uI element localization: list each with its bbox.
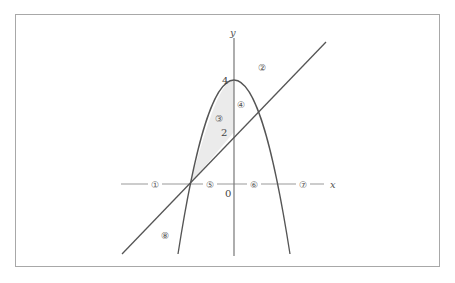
- line-curve: [122, 42, 326, 254]
- svg-text:⑤: ⑤: [206, 180, 214, 190]
- tick-label-y2: 2: [221, 127, 227, 138]
- origin-label: 0: [225, 188, 231, 199]
- svg-text:⑧: ⑧: [161, 231, 169, 241]
- region-marker-3: ③: [215, 114, 223, 124]
- region-marker-6: ⑥: [247, 178, 261, 190]
- svg-text:②: ②: [258, 63, 266, 73]
- region-marker-2: ②: [258, 63, 266, 73]
- shaded-area: [190, 80, 234, 184]
- region-marker-4: ④: [237, 100, 245, 110]
- svg-text:③: ③: [215, 114, 223, 124]
- region-marker-1: ①: [148, 178, 162, 190]
- svg-text:④: ④: [237, 100, 245, 110]
- svg-text:⑦: ⑦: [299, 180, 307, 190]
- svg-text:①: ①: [151, 180, 159, 190]
- x-axis-label: x: [330, 179, 336, 190]
- coordinate-diagram: y x 0 4 2 ① ② ③ ④ ⑤ ⑥ ⑦ ⑧: [0, 0, 455, 283]
- svg-text:⑥: ⑥: [250, 180, 258, 190]
- region-marker-8: ⑧: [161, 231, 169, 241]
- region-marker-5: ⑤: [203, 178, 217, 190]
- tick-label-y4: 4: [222, 75, 228, 86]
- region-marker-7: ⑦: [296, 178, 310, 190]
- y-axis-label: y: [229, 27, 236, 38]
